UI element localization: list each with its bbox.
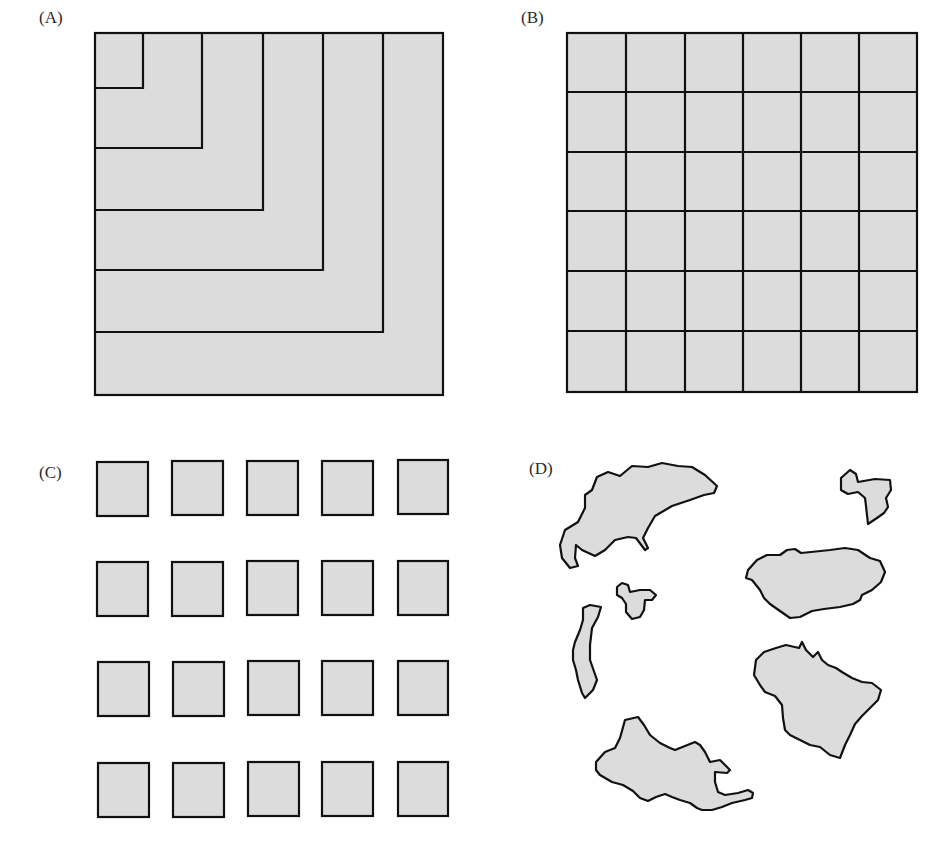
panel-b-grid xyxy=(567,33,917,392)
panel-c-squares xyxy=(97,460,448,817)
figure-canvas xyxy=(0,0,934,848)
panel-a-nested-regions xyxy=(95,33,443,395)
panel-d-fragments xyxy=(560,463,891,810)
